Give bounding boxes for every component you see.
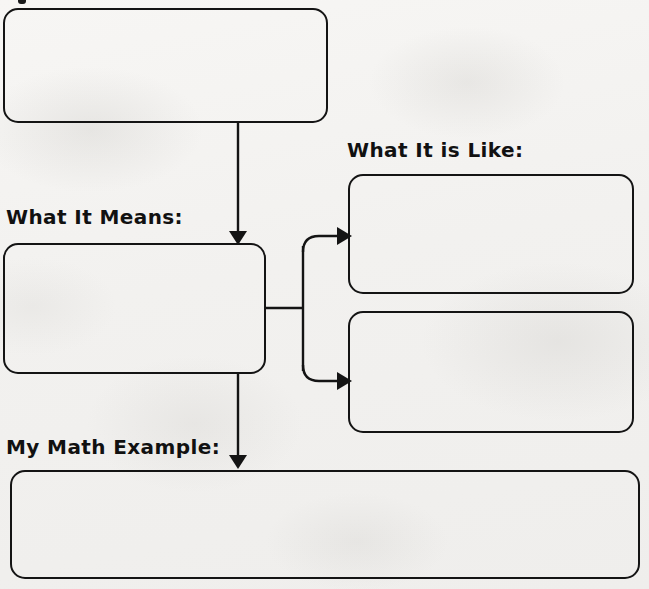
connector-means-branch-trunk [266, 246, 303, 371]
connector-means-to-like-1 [303, 227, 352, 252]
what-it-means-label: What It Means: [6, 207, 183, 227]
my-math-example-label: My Math Example: [6, 437, 220, 457]
cropped-title-descender [18, 0, 26, 4]
worksheet-sheet: What It Means: What It is Like: My Math … [0, 0, 649, 589]
connector-term-to-means [229, 123, 247, 245]
connector-means-to-like-2 [303, 365, 352, 390]
my-math-example-box[interactable] [10, 470, 640, 579]
what-it-is-like-box-1[interactable] [348, 174, 634, 294]
what-it-is-like-label: What It is Like: [347, 140, 523, 160]
what-it-is-like-box-2[interactable] [348, 311, 634, 433]
term-box[interactable] [3, 8, 328, 123]
connector-means-to-example [229, 374, 247, 469]
what-it-means-box[interactable] [3, 243, 266, 374]
